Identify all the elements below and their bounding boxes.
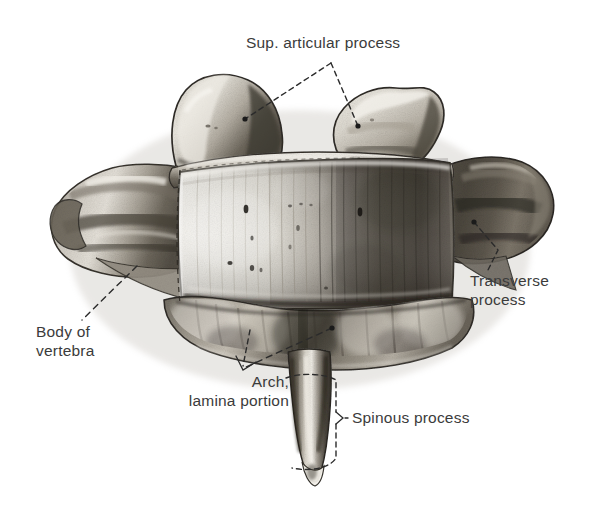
label-transverse-process: Transverseprocess	[470, 271, 549, 309]
label-transverse-process-line1: Transverse	[470, 272, 549, 289]
vertebra-illustration	[0, 0, 590, 509]
label-transverse-process-line2: process	[470, 291, 526, 308]
label-body-of-vertebra: Body ofvertebra	[36, 322, 94, 360]
label-arch-line1: Arch,	[252, 373, 289, 390]
figure-page: Sup. articular process Transverseprocess…	[0, 0, 590, 509]
label-arch-lamina-portion: Arch,lamina portion	[134, 372, 289, 410]
spinous-process	[288, 349, 331, 486]
label-body-of-vertebra-line2: vertebra	[36, 342, 94, 359]
label-spinous-process: Spinous process	[352, 408, 470, 427]
label-arch-line2: lamina portion	[189, 392, 289, 409]
vertebral-body	[178, 158, 456, 309]
label-body-of-vertebra-line1: Body of	[36, 323, 90, 340]
label-sup-articular-process: Sup. articular process	[246, 33, 400, 52]
